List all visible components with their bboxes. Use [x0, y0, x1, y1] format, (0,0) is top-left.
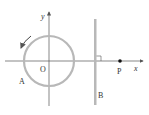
- point-label: P: [117, 67, 122, 76]
- x-axis-label: x: [133, 64, 138, 73]
- plate-b: [94, 19, 97, 105]
- right-angle-icon: [97, 56, 102, 61]
- origin-label: O: [40, 65, 46, 74]
- ring-label: A: [19, 77, 25, 86]
- plate-label: B: [98, 91, 103, 100]
- point-p: [118, 59, 122, 63]
- y-axis-label: y: [40, 12, 45, 21]
- diagram-canvas: y x O A B P: [0, 0, 149, 115]
